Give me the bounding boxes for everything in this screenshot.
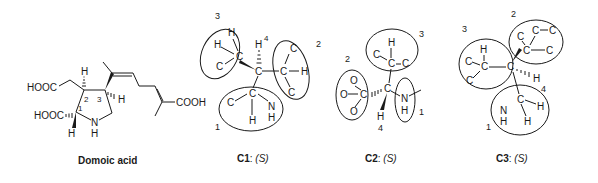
atom-label: C (402, 58, 409, 69)
domoic-acid-caption: Domoic acid (78, 155, 137, 166)
atom-label: H (500, 116, 507, 127)
priority-number-3: 3 (462, 24, 467, 34)
atom-label: H (537, 101, 544, 112)
priority-number-4: 4 (541, 84, 546, 94)
atom-label: C (546, 45, 553, 56)
position-3-label: 3 (97, 95, 102, 104)
atom-label: H (249, 115, 256, 126)
atom-label: C (549, 25, 556, 36)
position-1-label: 1 (78, 104, 83, 113)
atom-label: O (350, 106, 358, 117)
atom-label: C (523, 45, 530, 56)
atom-label: C (227, 97, 234, 108)
atom-label: H (214, 39, 221, 50)
priority-number-2: 2 (316, 39, 321, 49)
atom-label: C (517, 31, 524, 42)
c2-caption: C2: (S) (365, 153, 397, 164)
c1-priority-diagram: 3 2 1 4 C H H H C C C C H C C C (193, 11, 321, 132)
hydrogen-label: H (118, 94, 125, 105)
priority-number-1: 1 (486, 122, 491, 132)
hashed-bond (66, 113, 72, 118)
atom-label: C (360, 89, 367, 100)
atom-label: C (517, 94, 524, 105)
atom-label: C (216, 61, 223, 72)
atom-label: N (500, 105, 507, 116)
atom-label: O (350, 75, 358, 86)
c2-priority-diagram: 3 2 1 4 H C C C C H O O C O N H (336, 29, 424, 133)
hydrogen-atom: H (255, 39, 262, 50)
priority-number-3: 3 (215, 11, 220, 21)
hashed-bond (82, 77, 86, 86)
atom-label: H (480, 44, 487, 55)
atom-label: N (268, 101, 275, 112)
atom-label: H (388, 37, 395, 48)
priority-number-4: 4 (264, 34, 269, 43)
atom-label: H (524, 116, 531, 127)
cooh-label: HOOC (27, 82, 57, 93)
atom-label: H (301, 66, 308, 77)
priority-number-2: 2 (511, 9, 516, 19)
atom-label: H (228, 27, 235, 38)
atom-label: C (288, 87, 295, 98)
atom-label: C (236, 51, 243, 62)
priority-number-3: 3 (419, 29, 424, 39)
atom-label: C (373, 49, 380, 60)
c1-caption: C1: (S) (237, 153, 269, 164)
hashed-bond (108, 92, 114, 99)
hydrogen-label: H (91, 128, 98, 139)
domoic-acid-structure: HOOC HOOC COOH N H H H H 1 2 3 (27, 62, 206, 139)
atom-label: C (249, 88, 256, 99)
priority-number-4: 4 (378, 123, 383, 133)
hydrogen-atom: H (377, 111, 384, 122)
atom-label: H (268, 112, 275, 123)
c3-caption: C3: (S) (496, 153, 528, 164)
atom-label: C (465, 56, 472, 67)
c3-priority-diagram: 3 2 1 4 H C C C C H C C C C C C (459, 9, 563, 135)
atom-label: C (532, 25, 539, 36)
atom-label: O (340, 89, 348, 100)
atom-label: N (401, 93, 408, 104)
stereochemistry-diagram: HOOC HOOC COOH N H H H H 1 2 3 Domoic ac… (0, 0, 598, 183)
position-2-label: 2 (84, 95, 89, 104)
stereocenter-atom: C (255, 66, 262, 77)
priority-number-2: 2 (345, 54, 350, 64)
hydrogen-atom: H (533, 73, 540, 84)
atom-label: C (388, 58, 395, 69)
atom-label: C (290, 43, 297, 54)
priority-number-1: 1 (215, 122, 220, 132)
priority-number-1: 1 (419, 107, 424, 117)
hydrogen-label: H (81, 66, 88, 77)
atom-label: C (466, 75, 473, 86)
atom-label: C (280, 66, 287, 77)
stereocenter-atom: C (507, 61, 514, 72)
atom-label: C (481, 61, 488, 72)
hydrogen-label: H (68, 128, 75, 139)
stereocenter-atom: C (384, 83, 391, 94)
nitrogen-label: N (91, 117, 98, 128)
atom-label: H (401, 105, 408, 116)
cooh-label: COOH (176, 97, 206, 108)
cooh-label: HOOC (34, 110, 64, 121)
